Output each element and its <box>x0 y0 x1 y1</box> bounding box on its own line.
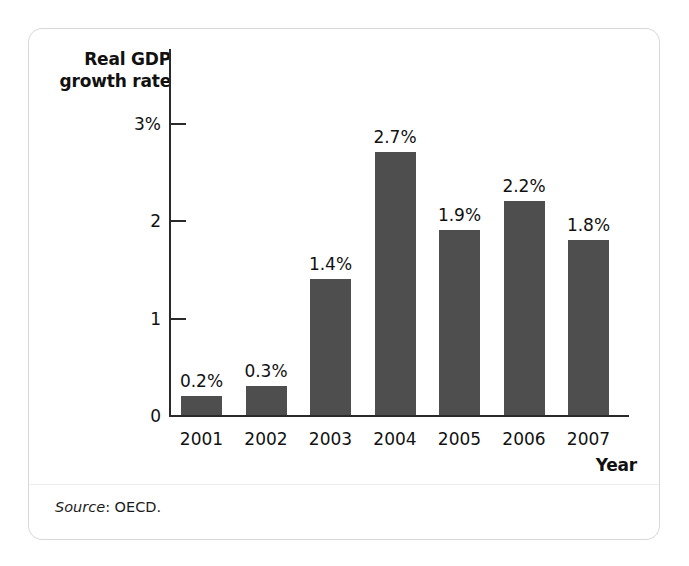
x-tick-label: 2006 <box>492 431 556 448</box>
bar-value-label: 1.9% <box>430 207 490 224</box>
bar[interactable] <box>310 279 351 416</box>
bar-value-label: 0.3% <box>236 363 296 380</box>
bars-layer: 0.2%0.3%1.4%2.7%1.9%2.2%1.8% <box>29 29 661 417</box>
bar[interactable] <box>504 201 545 416</box>
source-text: : OECD. <box>105 499 161 515</box>
x-tick-label: 2005 <box>428 431 492 448</box>
figure-frame: Real GDP growth rate 0123% 0.2%0.3%1.4%2… <box>28 28 660 540</box>
x-tick-label: 2003 <box>299 431 363 448</box>
bar[interactable] <box>375 152 416 415</box>
bar[interactable] <box>181 396 222 416</box>
bar-value-label: 1.8% <box>559 217 619 234</box>
source-divider <box>30 484 659 485</box>
x-tick-label: 2002 <box>234 431 298 448</box>
bar[interactable] <box>439 230 480 415</box>
source-label: Source <box>55 499 105 515</box>
bar[interactable] <box>246 386 287 415</box>
x-tick-label: 2001 <box>170 431 234 448</box>
bar[interactable] <box>568 240 609 416</box>
bar-value-label: 0.2% <box>172 373 232 390</box>
x-tick-label: 2007 <box>557 431 621 448</box>
source-note: Source: OECD. <box>55 499 161 515</box>
x-axis-title: Year <box>596 455 637 475</box>
bar-value-label: 2.7% <box>365 129 425 146</box>
bar-value-label: 2.2% <box>494 178 554 195</box>
x-tick-label: 2004 <box>363 431 427 448</box>
bar-chart: Real GDP growth rate 0123% 0.2%0.3%1.4%2… <box>29 29 661 541</box>
bar-value-label: 1.4% <box>301 256 361 273</box>
